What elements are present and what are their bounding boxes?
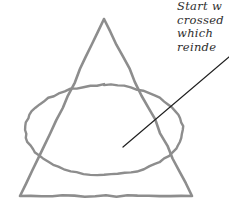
sketch-canvas: Start w crossed which reinde: [0, 0, 229, 202]
leader-line: [123, 57, 229, 147]
triangle-shape: [20, 19, 192, 197]
sketch-drawing: [0, 0, 229, 202]
